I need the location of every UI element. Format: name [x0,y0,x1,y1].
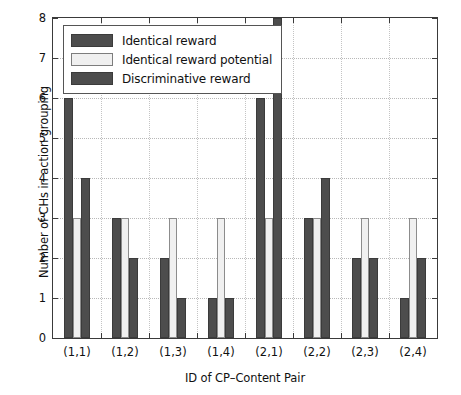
gridline-vertical [389,18,390,338]
bar [352,258,361,338]
bar [321,178,330,338]
x-tick-mark [341,18,342,23]
x-tick-mark [341,333,342,338]
bar [177,298,186,338]
bar [160,258,169,338]
x-tick-mark [245,18,246,23]
x-tick-mark [197,18,198,23]
bar [361,218,370,338]
bar [81,178,90,338]
x-tick-mark [389,18,390,23]
y-tick-label: 5 [39,131,46,145]
y-tick-mark [432,218,437,219]
y-tick-label: 7 [39,51,46,65]
chart-legend: Identical reward Identical reward potent… [63,25,282,94]
gridline-vertical [293,18,294,338]
y-tick-label: 3 [39,211,46,225]
x-tick-label: (2,3) [351,345,378,359]
x-tick-mark [197,333,198,338]
y-tick-mark [53,18,58,19]
y-tick-mark [432,18,437,19]
y-tick-mark [53,298,58,299]
bar [304,218,313,338]
y-tick-mark [53,218,58,219]
y-tick-mark [53,58,58,59]
legend-swatch-identical-reward [71,34,113,47]
x-tick-mark [293,333,294,338]
legend-label: Discriminative reward [122,72,250,86]
legend-swatch-discriminative-reward [71,72,113,85]
bar [265,218,274,338]
bar [409,218,418,338]
y-tick-mark [432,258,437,259]
legend-label: Identical reward potential [122,53,272,67]
bar [400,298,409,338]
gridline-horizontal [53,138,437,139]
x-axis-title: ID of CP–Content Pair [52,371,438,385]
x-tick-label: (1,1) [63,345,90,359]
x-tick-mark [389,333,390,338]
bar [208,298,217,338]
y-tick-mark [432,98,437,99]
x-tick-label: (2,1) [255,345,282,359]
bar [217,218,226,338]
bar [73,218,82,338]
x-tick-label: (2,4) [399,345,426,359]
gridline-vertical [341,18,342,338]
gridline-horizontal [53,178,437,179]
gridline-horizontal [53,98,437,99]
legend-label: Identical reward [122,34,216,48]
y-tick-label: 1 [39,291,46,305]
plot-area: 012345678(1,1)(1,2)(1,3)(1,4)(2,1)(2,2)(… [52,17,438,339]
legend-item: Discriminative reward [71,69,272,88]
bar [256,98,265,338]
y-tick-mark [53,98,58,99]
x-tick-label: (2,2) [303,345,330,359]
bar [313,218,322,338]
legend-item: Identical reward potential [71,50,272,69]
y-tick-label: 8 [39,11,46,25]
x-tick-mark [149,333,150,338]
y-tick-label: 4 [39,171,46,185]
x-tick-mark [101,18,102,23]
y-tick-mark [53,138,58,139]
y-tick-label: 0 [39,331,46,345]
x-tick-mark [149,18,150,23]
bar [169,218,178,338]
x-tick-label: (1,2) [111,345,138,359]
y-tick-mark [432,338,437,339]
x-tick-label: (1,3) [159,345,186,359]
bar [369,258,378,338]
y-tick-mark [53,178,58,179]
y-tick-label: 2 [39,251,46,265]
x-tick-label: (1,4) [207,345,234,359]
x-tick-mark [293,18,294,23]
y-tick-mark [432,58,437,59]
legend-item: Identical reward [71,31,272,50]
bar [129,258,138,338]
legend-swatch-identical-reward-potential [71,53,113,66]
x-tick-mark [245,333,246,338]
bar [112,218,121,338]
bar [225,298,234,338]
y-tick-mark [53,338,58,339]
y-tick-label: 6 [39,91,46,105]
bar [64,98,73,338]
y-tick-mark [432,178,437,179]
x-tick-mark [101,333,102,338]
bar [121,218,130,338]
y-tick-mark [432,298,437,299]
y-tick-mark [432,138,437,139]
y-tick-mark [53,258,58,259]
bar-chart-figure: Number of CHs in action grouping 0123456… [0,0,461,395]
bar [417,258,426,338]
